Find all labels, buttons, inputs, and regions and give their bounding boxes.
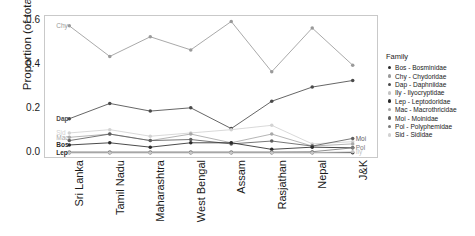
y-tick-label: 0.2 — [18, 102, 40, 113]
data-point — [108, 151, 112, 155]
data-point — [270, 139, 274, 143]
x-tick-label: Rasjathan — [276, 160, 288, 236]
series-chy — [68, 20, 355, 74]
data-point — [149, 139, 153, 143]
data-point — [351, 146, 355, 150]
data-point — [229, 128, 233, 132]
data-point — [310, 145, 314, 149]
data-point — [189, 48, 193, 52]
y-axis-tick-labels: 0.00.20.40.6 — [16, 0, 40, 236]
legend-item[interactable]: Sid - Sididae — [386, 131, 475, 139]
legend-item[interactable]: Lep - Leptodoridae — [386, 97, 475, 105]
x-tick-label: Assam — [235, 160, 247, 236]
chart-figure: Proportion (of total fauna) 0.00.20.40.6… — [0, 0, 475, 236]
series-line — [69, 134, 352, 146]
x-tick-label: Nepal — [316, 160, 328, 236]
data-point — [351, 137, 355, 141]
legend-item[interactable]: Dap - Daphniidae — [386, 80, 475, 88]
data-point — [108, 55, 112, 59]
data-point — [68, 24, 72, 28]
series-line — [69, 21, 352, 71]
data-point — [310, 85, 314, 89]
series-line — [69, 134, 352, 146]
data-point — [108, 102, 112, 106]
x-tick-label: Maharashtra — [154, 160, 166, 236]
data-point — [108, 141, 112, 145]
data-point — [108, 132, 112, 136]
series-moi — [68, 132, 355, 148]
legend-item-label: Chy - Chydoridae — [395, 73, 446, 80]
data-point — [149, 35, 153, 39]
legend-item-label: Mac - Macrothricidae — [395, 106, 457, 113]
data-point — [270, 100, 274, 104]
legend-point-icon — [386, 81, 393, 88]
y-tick-label: 0.4 — [18, 58, 40, 69]
data-point — [229, 20, 233, 24]
data-point — [229, 141, 233, 145]
x-tick-label: West Bengal — [195, 160, 207, 236]
y-tick-label: 0.0 — [18, 146, 40, 157]
x-tick-label: Tamil Nadu — [114, 160, 126, 236]
x-axis-tick-labels: Sri LankaTamil NaduMaharashtraWest Benga… — [44, 160, 378, 236]
legend-item-label: Lep - Leptodoridae — [395, 98, 450, 105]
data-point — [149, 134, 153, 138]
data-point — [310, 26, 314, 30]
legend-point-icon — [386, 106, 393, 113]
series-label-ily: Ily — [356, 148, 363, 155]
series-label-mac: Mac — [56, 134, 68, 141]
legend-item-label: Dap - Daphniidae — [395, 81, 446, 88]
series-line — [69, 148, 352, 152]
legend-point-icon — [386, 89, 393, 96]
data-point — [270, 132, 274, 136]
plot-svg — [45, 16, 377, 157]
data-point — [189, 132, 193, 136]
legend-item[interactable]: Moi - Moinidae — [386, 114, 475, 122]
series-label-lep: Lep — [56, 149, 68, 156]
legend-item-label: Moi - Moinidae — [395, 115, 438, 122]
data-point — [149, 151, 153, 155]
data-point — [270, 70, 274, 74]
legend-point-icon — [386, 98, 393, 105]
series-label-moi: Moi — [356, 135, 366, 142]
legend-point-icon — [386, 64, 393, 71]
data-point — [189, 106, 193, 110]
legend-title: Family — [386, 52, 475, 61]
data-point — [270, 151, 274, 155]
legend-point-icon — [386, 123, 393, 130]
data-point — [68, 151, 72, 155]
legend-point-icon — [386, 131, 393, 138]
series-line — [69, 80, 352, 128]
legend-item-label: Pol - Polyphemidae — [395, 123, 452, 130]
legend-item[interactable]: Mac - Macrothricidae — [386, 105, 475, 113]
legend: Family Bos - BosminidaeChy - ChydoridaeD… — [386, 52, 475, 139]
plot-panel: ChyDapSidMacMoiBosPolLepIly — [44, 15, 378, 158]
data-point — [189, 138, 193, 142]
legend-point-icon — [386, 115, 393, 122]
legend-item-label: Sid - Sididae — [395, 131, 432, 138]
data-point — [351, 150, 355, 154]
legend-item-label: Ily - Ilyocryptidae — [395, 89, 444, 96]
data-point — [189, 141, 193, 145]
data-point — [149, 109, 153, 113]
series-label-dap: Dap — [56, 115, 68, 122]
data-point — [270, 124, 274, 128]
data-point — [108, 128, 112, 132]
data-point — [310, 151, 314, 155]
data-point — [351, 142, 355, 146]
y-tick-label: 0.6 — [18, 14, 40, 25]
legend-item[interactable]: Chy - Chydoridae — [386, 72, 475, 80]
legend-items: Bos - BosminidaeChy - ChydoridaeDap - Da… — [386, 64, 475, 140]
series-label-bos: Bos — [56, 141, 68, 148]
series-dap — [68, 79, 355, 131]
data-point — [351, 63, 355, 67]
legend-item[interactable]: Pol - Polyphemidae — [386, 122, 475, 130]
legend-item[interactable]: Bos - Bosminidae — [386, 64, 475, 72]
data-point — [229, 151, 233, 155]
x-tick-label: Sri Lanka — [73, 160, 85, 236]
data-point — [351, 79, 355, 83]
data-point — [189, 151, 193, 155]
data-point — [149, 145, 153, 149]
series-label-chy: Chy — [56, 22, 68, 29]
legend-item[interactable]: Ily - Ilyocryptidae — [386, 89, 475, 97]
legend-point-icon — [386, 73, 393, 80]
